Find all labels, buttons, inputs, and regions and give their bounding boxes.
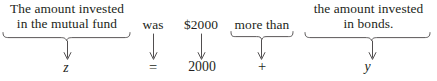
phrase-text-more-than: more than bbox=[228, 17, 296, 32]
down-arrow-more-than bbox=[255, 40, 268, 60]
symbol-mutual-fund: z bbox=[0, 60, 133, 76]
phrase-group-bonds: the amount invested in bonds. y bbox=[300, 0, 437, 81]
phrase-group-mutual-fund: The amount invested in the mutual fund z bbox=[0, 0, 134, 81]
phrase-text-mutual-fund: The amount invested in the mutual fund bbox=[0, 1, 134, 32]
phrase-group-more-than: more than + bbox=[228, 0, 296, 81]
underbrace-mutual-fund bbox=[0, 32, 134, 41]
underbrace-bonds bbox=[300, 32, 437, 41]
down-arrow-amount bbox=[195, 34, 208, 60]
word-problem-translation-diagram: The amount invested in the mutual fund z… bbox=[0, 0, 437, 81]
down-arrow-mutual-fund bbox=[61, 41, 74, 60]
underbrace-more-than bbox=[228, 31, 296, 40]
symbol-amount: 2000 bbox=[174, 59, 230, 75]
phrase-text-was: was bbox=[131, 17, 175, 32]
phrase-text-amount: $2000 bbox=[173, 17, 229, 32]
symbol-bonds: y bbox=[299, 59, 436, 75]
phrase-group-was: was = bbox=[131, 0, 175, 81]
symbol-was: = bbox=[131, 59, 175, 75]
phrase-text-bonds: the amount invested in bonds. bbox=[300, 1, 437, 32]
symbol-more-than: + bbox=[228, 58, 296, 74]
down-arrow-was bbox=[147, 34, 160, 60]
down-arrow-bonds bbox=[366, 41, 379, 60]
phrase-group-amount: $2000 2000 bbox=[173, 0, 229, 81]
